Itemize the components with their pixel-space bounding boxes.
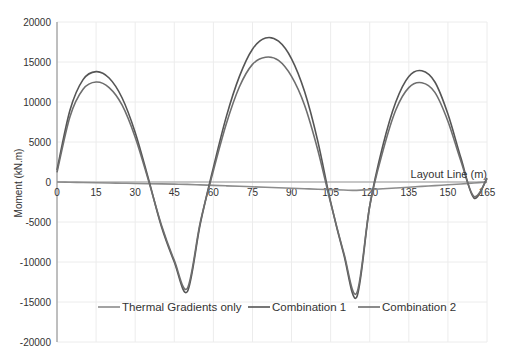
- x-tick-label: 0: [54, 187, 60, 198]
- x-tick-label: 150: [440, 187, 457, 198]
- x-tick-label: 60: [208, 187, 220, 198]
- x-tick-label: 15: [91, 187, 103, 198]
- x-tick-label: 30: [130, 187, 142, 198]
- y-tick-label: 15000: [23, 57, 51, 68]
- legend-item-label: Thermal Gradients only: [122, 301, 242, 313]
- x-axis-label: Layout Line (m): [411, 168, 487, 180]
- y-axis-label: Moment (kN.m): [13, 149, 24, 218]
- y-tick-label: -15000: [20, 297, 52, 308]
- x-axis-ticks: 0153045607590105120135150165: [54, 187, 496, 198]
- y-tick-label: 5000: [29, 137, 52, 148]
- y-axis-ticks: 20000150001000050000-5000-10000-15000-20…: [20, 17, 52, 348]
- y-tick-label: 0: [45, 177, 51, 188]
- x-tick-label: 75: [247, 187, 259, 198]
- series-line-1: [57, 182, 487, 190]
- y-tick-label: 10000: [23, 97, 51, 108]
- legend: Thermal Gradients onlyCombination 1Combi…: [98, 301, 456, 313]
- moment-chart: 20000150001000050000-5000-10000-15000-20…: [0, 0, 515, 362]
- y-tick-label: -5000: [25, 217, 51, 228]
- y-tick-label: -10000: [20, 257, 52, 268]
- legend-item-label: Combination 2: [382, 301, 456, 313]
- x-tick-label: 135: [400, 187, 417, 198]
- legend-item-label: Combination 1: [272, 301, 346, 313]
- y-tick-label: -20000: [20, 337, 52, 348]
- x-tick-label: 45: [169, 187, 181, 198]
- y-tick-label: 20000: [23, 17, 51, 28]
